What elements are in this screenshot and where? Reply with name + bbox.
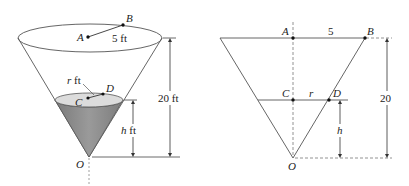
label-r: r <box>309 87 314 99</box>
label-r-ft: r ft <box>67 74 81 86</box>
label-o: O <box>288 160 296 172</box>
point-a-dot <box>291 36 294 39</box>
label-h: h <box>337 124 343 136</box>
point-d-dot <box>101 92 104 95</box>
cross-section-figure: A 5 B C r D 20 h O <box>220 22 396 172</box>
label-b: B <box>367 25 374 37</box>
label-o: O <box>76 158 84 170</box>
cone-3d-figure: A B 5 ft r ft D C 20 ft h ft O <box>18 12 182 184</box>
label-c: C <box>282 87 290 99</box>
right-side <box>293 38 365 158</box>
point-b-dot <box>121 23 124 26</box>
label-d: D <box>332 87 341 99</box>
label-20: 20 <box>380 92 392 104</box>
point-d-dot <box>327 98 330 101</box>
point-c-dot <box>86 96 89 99</box>
water-surface <box>55 93 123 107</box>
label-5: 5 <box>328 25 334 37</box>
label-20ft: 20 ft <box>158 92 178 104</box>
point-c-dot <box>291 98 294 101</box>
point-a-dot <box>86 35 89 38</box>
label-a: A <box>281 25 289 37</box>
label-radius-5ft: 5 ft <box>112 32 127 44</box>
label-h-ft: h ft <box>121 124 136 136</box>
diagram-canvas: A B 5 ft r ft D C 20 ft h ft O A 5 <box>0 0 409 186</box>
label-b: B <box>126 12 133 24</box>
water-volume <box>55 100 123 157</box>
label-a: A <box>76 31 84 43</box>
label-d: D <box>105 82 114 94</box>
label-c: C <box>75 96 83 108</box>
cone-rim <box>18 24 162 52</box>
